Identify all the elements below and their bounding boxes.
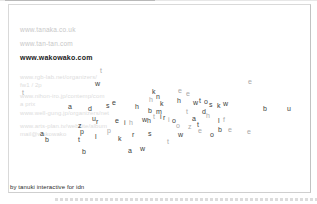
scatter-letter-i[interactable]: i	[124, 119, 126, 126]
scatter-letter-t[interactable]: t	[186, 108, 188, 115]
scatter-letter-h[interactable]: h	[206, 112, 210, 119]
scatter-letter-k[interactable]: k	[118, 135, 122, 142]
scatter-letter-w[interactable]: w	[223, 100, 228, 107]
scatter-letter-k[interactable]: k	[160, 100, 164, 107]
scatter-letter-s[interactable]: s	[106, 102, 110, 109]
scatter-letter-r[interactable]: r	[163, 114, 165, 121]
scatter-letter-e[interactable]: e	[247, 128, 251, 135]
scatter-letter-i[interactable]: i	[168, 116, 170, 123]
browser-viewport: www.tanaka.co.uk www.tan-tan.com www.wak…	[0, 0, 317, 204]
scatter-letter-b[interactable]: b	[218, 126, 222, 133]
scatter-letter-t[interactable]: t	[167, 138, 169, 145]
scatter-letter-l[interactable]: l	[95, 133, 97, 140]
scatter-letter-o[interactable]: o	[210, 131, 214, 138]
scatter-letter-t[interactable]: t	[199, 97, 201, 104]
scatter-letter-a[interactable]: a	[40, 130, 44, 137]
scatter-letter-e[interactable]: e	[112, 99, 116, 106]
scatter-letter-p[interactable]: p	[107, 127, 111, 134]
scatter-letter-e[interactable]: e	[228, 126, 232, 133]
scatter-letter-s[interactable]: s	[209, 101, 213, 108]
scatter-letter-u[interactable]: u	[287, 105, 291, 112]
scatter-letter-t[interactable]: t	[78, 136, 80, 143]
scatter-letter-h[interactable]: h	[135, 103, 139, 110]
nav-link-1[interactable]: www.tanaka.co.uk	[20, 26, 76, 33]
scatter-letter-k[interactable]: k	[217, 102, 221, 109]
scatter-letter-s[interactable]: s	[148, 130, 152, 137]
scatter-letter-w[interactable]: w	[193, 99, 198, 106]
faint-link-4[interactable]: a prix	[20, 101, 35, 107]
scatter-letter-e[interactable]: e	[178, 87, 182, 94]
nav-link-active[interactable]: www.wakowako.com	[20, 54, 93, 61]
scatter-letter-h[interactable]: h	[129, 119, 133, 126]
scatter-letter-h[interactable]: h	[147, 117, 151, 124]
scatter-letter-w[interactable]: w	[95, 80, 100, 87]
scatter-letter-i[interactable]: i	[160, 113, 162, 120]
cropped-top-rule-dark	[5, 0, 155, 1]
scatter-letter-o[interactable]: o	[176, 122, 180, 129]
scatter-letter-e[interactable]: e	[186, 90, 190, 97]
scatter-letter-e[interactable]: e	[248, 78, 252, 85]
faint-link-2[interactable]: fw1 / 2p	[20, 82, 42, 88]
scatter-letter-p[interactable]: p	[80, 128, 84, 135]
scatter-letter-d[interactable]: d	[88, 105, 92, 112]
scatter-letter-f[interactable]: f	[223, 116, 225, 123]
scatter-letter-a[interactable]: a	[192, 115, 196, 122]
faint-link-1[interactable]: www.rgb-lab.net/organizers/	[20, 74, 97, 80]
cropped-caption-text	[55, 198, 317, 201]
scatter-letter-b[interactable]: b	[45, 136, 49, 143]
scatter-letter-b[interactable]: b	[263, 105, 267, 112]
scatter-letter-t[interactable]: t	[100, 67, 102, 74]
scatter-letter-a[interactable]: a	[68, 103, 72, 110]
scatter-letter-h[interactable]: h	[177, 97, 181, 104]
scatter-letter-r[interactable]: r	[132, 131, 134, 138]
nav-link-2[interactable]: www.tan-tan.com	[20, 40, 73, 47]
scatter-letter-r[interactable]: r	[96, 118, 98, 125]
scatter-letter-w[interactable]: w	[140, 145, 145, 152]
scatter-letter-e[interactable]: e	[115, 117, 119, 124]
scatter-letter-h[interactable]: h	[149, 96, 153, 103]
scatter-letter-b[interactable]: b	[82, 148, 86, 155]
scatter-letter-z[interactable]: z	[188, 123, 192, 130]
scatter-letter-e[interactable]: e	[198, 127, 202, 134]
scatter-letter-o[interactable]: o	[204, 98, 208, 105]
scatter-letter-b[interactable]: b	[148, 107, 152, 114]
scatter-letter-t[interactable]: t	[22, 89, 24, 96]
scatter-letter-w[interactable]: w	[178, 131, 183, 138]
scatter-letter-n[interactable]: n	[156, 93, 160, 100]
scatter-letter-a[interactable]: a	[128, 147, 132, 154]
scatter-letter-l[interactable]: l	[218, 117, 220, 124]
faint-link-3[interactable]: www.nihon-iro.jp/contemp/com	[20, 93, 105, 99]
credit-text: by tanuki interactive for idn	[10, 184, 84, 190]
faint-link-6[interactable]: www.arts-plan.tv/website/album	[20, 123, 107, 129]
scatter-letter-t[interactable]: t	[153, 113, 155, 120]
scatter-letter-k[interactable]: k	[152, 88, 156, 95]
